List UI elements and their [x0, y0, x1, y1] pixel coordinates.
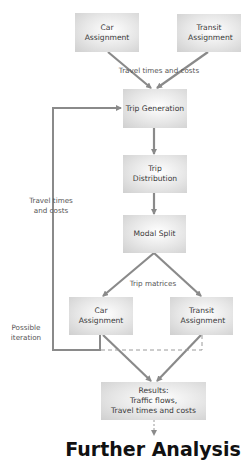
- node-label: Modal Split: [133, 229, 175, 239]
- node-label: Trip Distribution: [125, 164, 185, 184]
- node-label: Transit Assignment: [188, 23, 230, 43]
- arrow-modal-to-car: [103, 253, 154, 296]
- node-label: Trip Generation: [126, 104, 184, 114]
- arrow-modal-to-transit: [154, 253, 201, 296]
- node-label: Car Assignment: [77, 23, 137, 43]
- node-modal-split: Modal Split: [123, 215, 186, 253]
- node-label: Car Assignment: [71, 306, 131, 326]
- label-travel-times-left: Travel times and costs: [26, 196, 76, 215]
- label-possible-iteration: Possible iteration: [6, 323, 46, 342]
- label-travel-times-top: Travel times and costs: [116, 66, 202, 76]
- node-car-assignment-top: Car Assignment: [75, 13, 139, 52]
- node-transit-assignment-top: Transit Assignment: [177, 14, 241, 52]
- node-car-assignment-bottom: Car Assignment: [69, 297, 133, 335]
- node-trip-generation: Trip Generation: [123, 89, 187, 128]
- arrow-transit-to-results: [157, 335, 201, 381]
- node-results: Results: Traffic flows, Travel times and…: [101, 382, 206, 420]
- label-trip-matrices: Trip matrices: [125, 279, 181, 289]
- further-analysis-title: Further Analysis: [0, 438, 248, 460]
- node-label: Transit Assignment: [181, 306, 223, 326]
- arrow-car-to-results: [103, 335, 151, 381]
- node-transit-assignment-bottom: Transit Assignment: [170, 297, 233, 335]
- node-trip-distribution: Trip Distribution: [123, 155, 187, 193]
